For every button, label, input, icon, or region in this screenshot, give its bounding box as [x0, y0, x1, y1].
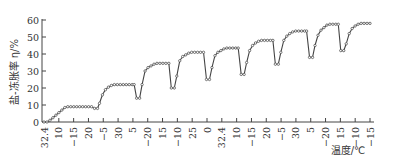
data-point-marker: [61, 109, 63, 111]
x-tick-label: 5: [305, 127, 316, 133]
data-point-marker: [335, 23, 337, 25]
data-point-marker: [165, 62, 167, 64]
data-point-marker: [144, 70, 146, 72]
data-point-marker: [274, 63, 276, 65]
data-point-marker: [280, 51, 282, 53]
data-point-marker: [193, 51, 195, 53]
x-tick-label: 15: [335, 127, 346, 139]
x-tick-label: 0: [202, 127, 213, 133]
data-point-marker: [138, 97, 140, 99]
data-point-marker: [272, 39, 274, 41]
x-tick-label: 10: [231, 127, 242, 139]
data-point-marker: [202, 51, 204, 53]
x-tick-label: 30: [113, 127, 124, 139]
data-point-marker: [135, 97, 137, 99]
data-point-marker: [119, 83, 121, 85]
data-point-marker: [170, 87, 172, 89]
x-tick-label: 30: [290, 127, 301, 139]
data-point-marker: [332, 23, 334, 25]
data-point-marker: [317, 34, 319, 36]
data-point-marker: [369, 22, 371, 24]
data-point-marker: [286, 35, 288, 37]
data-point-marker: [311, 56, 313, 58]
y-tick-label: 60: [27, 15, 39, 26]
data-point-marker: [360, 22, 362, 24]
data-point-marker: [159, 62, 161, 64]
data-point-marker: [107, 86, 109, 88]
data-point-marker: [162, 62, 164, 64]
data-point-marker: [329, 23, 331, 25]
data-point-marker: [184, 54, 186, 56]
data-point-marker: [214, 55, 216, 57]
data-point-marker: [220, 49, 222, 51]
data-point-marker: [104, 89, 106, 91]
data-point-marker: [98, 102, 100, 104]
data-point-marker: [147, 66, 149, 68]
data-point-marker: [269, 39, 271, 41]
x-tick-label: −10: [172, 127, 183, 147]
data-point-marker: [43, 121, 45, 123]
data-point-marker: [235, 47, 237, 49]
data-point-marker: [343, 49, 345, 51]
data-point-marker: [308, 56, 310, 58]
data-point-marker: [133, 83, 135, 85]
data-point-marker: [351, 27, 353, 29]
x-tick-label: −20: [142, 127, 153, 147]
data-series: [43, 22, 371, 123]
data-point-marker: [101, 94, 103, 96]
x-tick-label: −15: [365, 127, 376, 147]
data-point-marker: [366, 22, 368, 24]
data-point-marker: [232, 47, 234, 49]
data-point-marker: [168, 62, 170, 64]
data-point-marker: [245, 61, 247, 63]
x-tick-label: 20: [83, 127, 94, 139]
data-point-marker: [300, 30, 302, 32]
data-point-marker: [354, 25, 356, 27]
data-point-marker: [64, 106, 66, 108]
x-tick-label: 32.4: [216, 127, 227, 148]
data-point-marker: [254, 42, 256, 44]
data-point-marker: [326, 24, 328, 26]
data-point-marker: [96, 107, 98, 109]
data-point-marker: [110, 84, 112, 86]
data-point-marker: [243, 73, 245, 75]
data-point-marker: [320, 29, 322, 31]
data-point-marker: [314, 44, 316, 46]
data-point-marker: [141, 83, 143, 85]
x-tick-label: −5: [98, 127, 109, 141]
data-point-marker: [211, 66, 213, 68]
data-point-marker: [46, 121, 48, 123]
data-point-marker: [179, 60, 181, 62]
x-tick-label: −5: [276, 127, 287, 141]
y-axis: 0102030405060: [27, 15, 46, 128]
y-tick-label: 40: [27, 49, 39, 60]
x-tick-label: 5: [127, 127, 138, 133]
data-point-marker: [67, 106, 69, 108]
data-point-marker: [260, 39, 262, 41]
data-point-marker: [87, 106, 89, 108]
data-point-marker: [323, 26, 325, 28]
data-point-marker: [122, 83, 124, 85]
data-point-marker: [337, 23, 339, 25]
data-point-marker: [248, 49, 250, 51]
x-tick-label: −15: [246, 127, 257, 147]
data-point-marker: [277, 63, 279, 65]
data-point-marker: [70, 106, 72, 108]
y-tick-label: 30: [27, 66, 39, 77]
data-point-marker: [226, 47, 228, 49]
x-tick-label: −20: [320, 127, 331, 147]
data-point-marker: [199, 51, 201, 53]
data-point-marker: [348, 32, 350, 34]
data-point-marker: [266, 39, 268, 41]
data-point-marker: [223, 48, 225, 50]
data-point-marker: [196, 51, 198, 53]
data-point-marker: [257, 40, 259, 42]
x-tick-label: 25: [187, 127, 198, 139]
data-point-marker: [237, 47, 239, 49]
data-point-marker: [173, 87, 175, 89]
data-point-marker: [205, 78, 207, 80]
data-point-marker: [55, 114, 57, 116]
data-point-marker: [297, 30, 299, 32]
y-axis-label: 盐-冻胀率 η/%: [8, 39, 20, 105]
data-point-marker: [283, 39, 285, 41]
